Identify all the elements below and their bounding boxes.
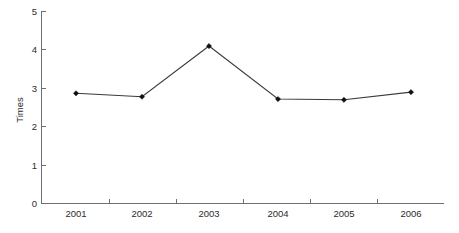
x-tick-label: 2001 <box>65 208 86 219</box>
x-tick-label: 2006 <box>400 208 421 219</box>
y-tick-label: 1 <box>32 160 37 171</box>
chart-canvas: 5 4 3 2 1 0 Times 2001 2002 2003 2004 20… <box>0 0 459 233</box>
line-chart-figure: 5 4 3 2 1 0 Times 2001 2002 2003 2004 20… <box>0 0 459 233</box>
y-axis-title: Times <box>14 97 25 123</box>
y-tick-label: 5 <box>32 6 37 17</box>
y-tick-label: 3 <box>32 83 37 94</box>
chart-background <box>0 0 459 233</box>
y-tick-label: 2 <box>32 121 37 132</box>
x-tick-label: 2002 <box>131 208 152 219</box>
x-tick-label: 2004 <box>267 208 288 219</box>
x-tick-label: 2005 <box>333 208 354 219</box>
y-tick-label: 4 <box>32 44 37 55</box>
y-tick-label: 0 <box>32 198 37 209</box>
x-tick-label: 2003 <box>198 208 219 219</box>
